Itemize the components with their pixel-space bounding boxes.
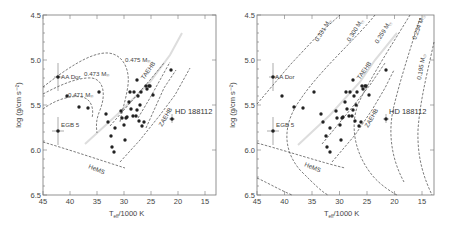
right-ytick-5.0: 5.0 bbox=[245, 56, 255, 65]
left-ytick-5.0: 5.0 bbox=[31, 56, 41, 65]
right-tracks bbox=[257, 15, 434, 195]
right-xtick-15: 15 bbox=[418, 197, 426, 206]
left-xtick-45: 45 bbox=[39, 197, 47, 206]
left-label-m475: 0.475 M☉ bbox=[125, 56, 151, 64]
left-plot-frame bbox=[43, 15, 216, 195]
left-label-hems: HeMS bbox=[88, 162, 107, 175]
right-xtick-35: 35 bbox=[308, 197, 316, 206]
left-x-axis-label: Teff/1000 K bbox=[109, 209, 144, 219]
right-xtick-20: 20 bbox=[390, 197, 398, 206]
right-label-aa-dor: AA Dor bbox=[275, 73, 295, 80]
left-data-points bbox=[56, 68, 174, 153]
right-xtick-40: 40 bbox=[280, 197, 288, 206]
right-label-m300: 0.300 M☉ bbox=[345, 16, 366, 43]
right-label-m195: 0.195 M☉ bbox=[415, 53, 427, 80]
left-label-aa-dor: AA Dor bbox=[61, 73, 81, 80]
left-label-egb5: EGB 5 bbox=[61, 121, 80, 128]
right-xtick-45: 45 bbox=[253, 197, 261, 206]
left-gray-track bbox=[85, 33, 182, 144]
right-xtick-30: 30 bbox=[335, 197, 343, 206]
left-xtick-40: 40 bbox=[66, 197, 74, 206]
right-y-axis bbox=[257, 15, 434, 195]
right-x-axis-label: Teff/1000 K bbox=[324, 209, 359, 219]
left-ytick-6.0: 6.0 bbox=[31, 146, 41, 155]
left-ytick-5.5: 5.5 bbox=[31, 101, 41, 110]
right-xtick-25: 25 bbox=[363, 197, 371, 206]
figure: 4.5 5.0 5.5 6.0 6.5 45 40 35 30 25 20 15… bbox=[0, 0, 449, 226]
right-label-zaehb: ZAEHB bbox=[363, 107, 379, 128]
left-label-m473: 0.473 M☉ bbox=[84, 70, 110, 78]
right-label-hems: HeMS bbox=[304, 160, 323, 173]
left-xtick-25: 25 bbox=[147, 197, 155, 206]
right-gray-track bbox=[298, 33, 397, 145]
right-label-m331: 0.331 M☉ bbox=[313, 16, 334, 43]
left-label-m471: 0.471 M☉ bbox=[68, 91, 94, 99]
right-label-hd188112: HD 188112 bbox=[389, 107, 426, 116]
left-xtick-30: 30 bbox=[120, 197, 128, 206]
left-xtick-15: 15 bbox=[201, 197, 209, 206]
left-y-axis bbox=[43, 15, 216, 195]
left-label-hd188112: HD 188112 bbox=[175, 107, 212, 116]
left-label-zaehb: ZAEHB bbox=[157, 106, 173, 127]
right-ytick-4.5: 4.5 bbox=[245, 11, 255, 20]
right-panel: 4.5 5.0 5.5 6.0 6.5 45 40 35 30 25 20 15… bbox=[228, 11, 434, 219]
left-y-axis-label: log (g/cm s⁻²) bbox=[14, 82, 23, 128]
left-panel: 4.5 5.0 5.5 6.0 6.5 45 40 35 30 25 20 15… bbox=[14, 11, 216, 219]
right-ytick-5.5: 5.5 bbox=[245, 101, 255, 110]
right-label-egb5: EGB 5 bbox=[276, 121, 295, 128]
left-ytick-4.5: 4.5 bbox=[31, 11, 41, 20]
right-y-axis-label: log (g/cm s⁻²) bbox=[228, 82, 237, 128]
right-label-m234: 0.234 M☉ bbox=[410, 13, 427, 41]
right-plot-frame bbox=[257, 15, 434, 195]
left-xtick-20: 20 bbox=[174, 197, 182, 206]
right-ytick-6.0: 6.0 bbox=[245, 146, 255, 155]
left-xtick-35: 35 bbox=[93, 197, 101, 206]
